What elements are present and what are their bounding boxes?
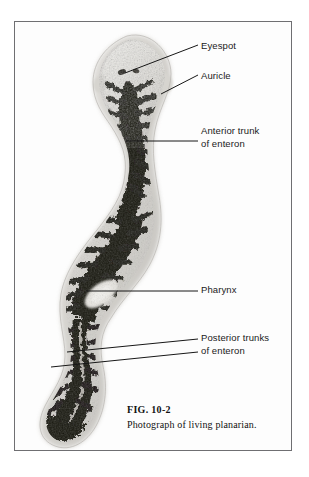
callout-label-anterior-trunk: Anterior trunk of enteron	[201, 125, 259, 150]
callout-label-posterior-trunks: Posterior trunks of enteron	[201, 332, 269, 357]
figure-plate-frame: Eyespot Auricle Anterior trunk of entero…	[14, 21, 292, 451]
callout-label-auricle: Auricle	[201, 70, 231, 83]
planarian-photograph	[15, 22, 292, 451]
callout-label-pharynx: Pharynx	[201, 284, 237, 297]
figure-caption-block: FIG. 10-2 Photograph of living planarian…	[127, 404, 292, 431]
callout-label-eyespot: Eyespot	[201, 40, 236, 53]
figure-number: FIG. 10-2	[127, 404, 292, 415]
figure-caption-text: Photograph of living planarian.	[127, 418, 292, 431]
figure-page: Eyespot Auricle Anterior trunk of entero…	[0, 0, 309, 477]
